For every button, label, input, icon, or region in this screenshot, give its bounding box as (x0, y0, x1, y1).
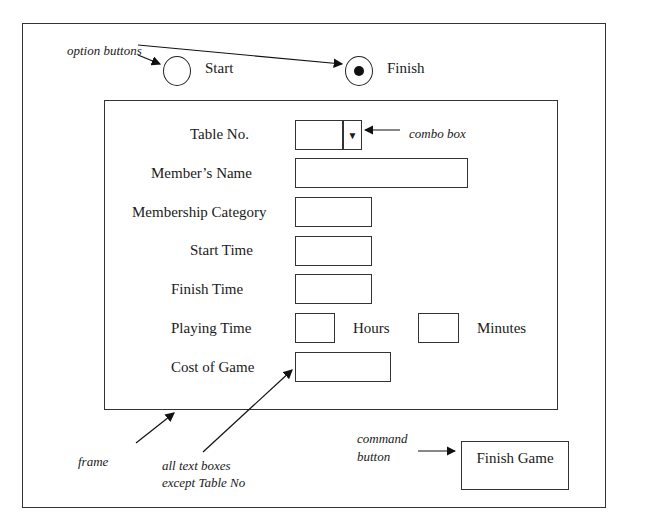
membership-category-label: Membership Category (132, 204, 267, 221)
members-name-label: Member’s Name (151, 165, 252, 182)
cost-of-game-field[interactable] (295, 352, 391, 382)
members-name-field[interactable] (295, 158, 468, 188)
hours-label: Hours (353, 320, 390, 337)
playing-time-minutes-field[interactable] (418, 313, 459, 343)
annotation-text-boxes-2: except Table No (162, 475, 245, 491)
table-no-label: Table No. (190, 126, 249, 143)
playing-time-hours-field[interactable] (295, 313, 335, 343)
annotation-option-buttons: option buttons (67, 43, 142, 59)
start-time-label: Start Time (190, 242, 253, 259)
annotation-combo-box: combo box (409, 126, 466, 142)
annotation-frame: frame (78, 454, 108, 470)
finish-option-radio[interactable] (345, 56, 373, 86)
start-option-radio[interactable] (163, 56, 191, 86)
annotation-command-button-2: button (357, 449, 390, 465)
start-time-field[interactable] (295, 236, 372, 266)
finish-option-label: Finish (387, 60, 425, 77)
cost-of-game-label: Cost of Game (171, 359, 254, 376)
selected-dot-icon (354, 66, 364, 76)
table-no-combo[interactable]: ▼ (295, 120, 362, 150)
minutes-label: Minutes (477, 320, 526, 337)
annotation-text-boxes-1: all text boxes (162, 458, 231, 474)
start-option-label: Start (205, 60, 233, 77)
annotation-command-button-1: command (357, 431, 408, 447)
finish-game-button[interactable]: Finish Game (461, 441, 569, 490)
chevron-down-icon[interactable]: ▼ (344, 121, 361, 149)
finish-time-field[interactable] (295, 274, 372, 304)
membership-category-field[interactable] (295, 197, 372, 227)
playing-time-label: Playing Time (171, 320, 251, 337)
finish-time-label: Finish Time (171, 281, 243, 298)
finish-game-button-label: Finish Game (476, 450, 553, 489)
